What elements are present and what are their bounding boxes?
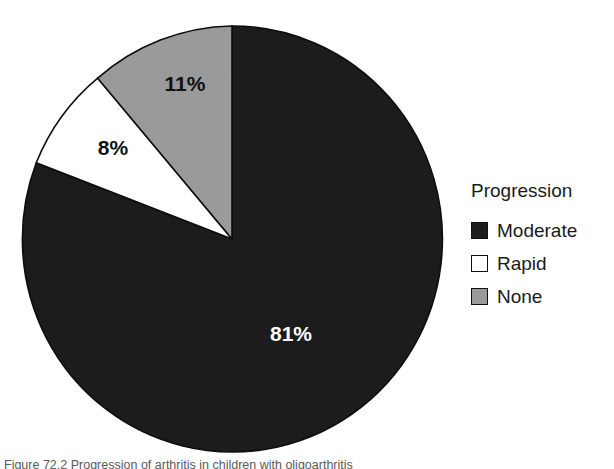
pie-svg (0, 0, 470, 469)
legend-item-none[interactable]: None (471, 280, 614, 313)
legend-swatch-none-icon (471, 288, 488, 305)
legend: Progression Moderate Rapid None (471, 180, 614, 313)
legend-label-none: None (497, 286, 542, 307)
pie-label-none: 11% (165, 72, 206, 96)
pie-chart-figure: 81% 8% 11% Progression Moderate Rapid No… (0, 0, 614, 469)
legend-label-moderate: Moderate (497, 220, 577, 241)
legend-title: Progression (471, 180, 614, 202)
legend-item-moderate[interactable]: Moderate (471, 214, 614, 247)
legend-swatch-moderate-icon (471, 222, 488, 239)
figure-caption: Figure 72.2 Progression of arthritis in … (4, 458, 610, 469)
legend-label-rapid: Rapid (497, 253, 547, 274)
pie-label-moderate: 81% (270, 322, 312, 346)
pie-chart-plot-area: 81% 8% 11% (0, 0, 470, 469)
legend-swatch-rapid-icon (471, 255, 488, 272)
pie-label-rapid: 8% (98, 136, 128, 160)
legend-item-rapid[interactable]: Rapid (471, 247, 614, 280)
